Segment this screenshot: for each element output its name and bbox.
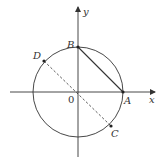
point-d (42, 59, 45, 62)
origin-label: 0 (68, 94, 74, 105)
point-a-label: A (123, 95, 131, 106)
point-b (76, 45, 79, 48)
diagram-canvas: y x 0 A B C D (0, 0, 162, 164)
point-c-label: C (111, 128, 119, 139)
segment-ab (78, 47, 123, 92)
x-axis-label: x (149, 94, 155, 105)
y-axis-label: y (82, 6, 89, 17)
point-d-label: D (32, 50, 41, 61)
point-a (121, 90, 124, 93)
segment-dc (44, 61, 111, 126)
coordinate-diagram: y x 0 A B C D (0, 0, 162, 164)
point-b-label: B (66, 39, 74, 50)
